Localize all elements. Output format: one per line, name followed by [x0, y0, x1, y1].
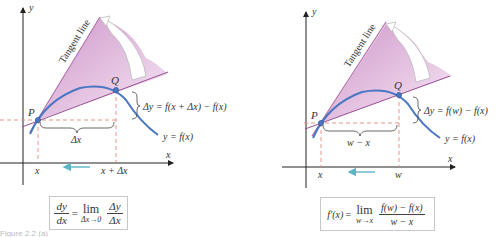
tick-x-label: x: [34, 165, 40, 176]
numerator: f(w) − f(x): [379, 201, 425, 215]
tick-w-label: w: [395, 169, 402, 180]
lim-text: lim: [83, 203, 99, 215]
equals-sign: =: [345, 209, 351, 220]
delta-x-brace: [40, 122, 114, 133]
numerator: dy: [54, 200, 68, 214]
derivative-formula-box: dy dx = lim Δx→0 Δy Δx: [49, 196, 128, 230]
x-axis-label: x: [447, 153, 453, 164]
derivative-formula-box: f′(x) = lim w→x f(w) − f(x) w − x: [320, 197, 435, 231]
point-p-label: P: [310, 109, 318, 121]
right-panel: y x Tangent line P Q Δy = f(w) − f(x) y …: [282, 6, 488, 188]
tick-x-label: x: [317, 169, 323, 180]
difference-quotient: f(w) − f(x) w − x: [379, 201, 425, 228]
curve-label: y = f(x): [444, 133, 476, 145]
point-q-label: Q: [394, 79, 402, 91]
limit: lim w→x: [356, 204, 373, 225]
y-axis-label: y: [311, 6, 317, 17]
tick-x2-label: x + Δx: [100, 165, 128, 176]
dy-dx-fraction: dy dx: [54, 200, 68, 227]
point-p-label: P: [27, 106, 35, 118]
equals-sign: =: [72, 207, 78, 219]
numerator: Δy: [107, 200, 122, 214]
delta-fraction: Δy Δx: [107, 200, 122, 227]
left-panel: y x Tangent line P Q Δy = f(x + Δx) − f(…: [0, 2, 227, 185]
denominator: w − x: [388, 215, 415, 228]
denominator: Δx: [107, 214, 122, 227]
delta-y-label: Δy = f(w) − f(x): [423, 105, 488, 117]
delta-x-label: Δx: [70, 134, 82, 145]
x-axis-label: x: [165, 149, 171, 160]
lim-subscript: Δx→0: [81, 215, 101, 224]
y-axis-label: y: [28, 2, 34, 13]
lim-text: lim: [356, 204, 372, 216]
limit: lim Δx→0: [81, 203, 101, 224]
point-p: [35, 117, 40, 122]
f-prime-x: f′(x): [327, 209, 343, 220]
point-p: [318, 120, 323, 125]
point-q: [396, 92, 401, 97]
point-q: [113, 87, 118, 92]
delta-y-label: Δy = f(x + Δx) − f(x): [142, 101, 227, 113]
lim-subscript: w→x: [356, 216, 373, 225]
point-q-label: Q: [111, 74, 119, 86]
denominator: dx: [54, 214, 68, 227]
figure-caption: Figure 2.2 (a): [0, 229, 48, 237]
delta-x-brace: [323, 125, 397, 136]
curve-label: y = f(x): [162, 131, 194, 143]
delta-x-label: w − x: [347, 137, 370, 148]
